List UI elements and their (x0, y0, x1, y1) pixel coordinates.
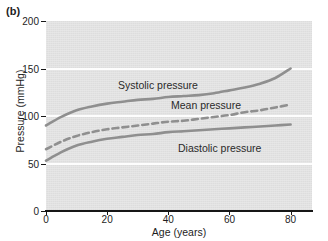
series-label-diastolic: Diastolic pressure (178, 142, 261, 154)
y-tick-0 (41, 211, 46, 212)
x-tick-label-0: 0 (43, 214, 49, 225)
x-tick-label-20: 20 (102, 214, 113, 225)
y-tick-150 (41, 69, 46, 70)
figure-panel: (b) 020406080 050100150200 Age (years) P… (0, 0, 328, 241)
y-axis-title: Pressure (mmHg) (14, 46, 26, 176)
y-tick-100 (41, 116, 46, 117)
series-label-systolic: Systolic pressure (118, 79, 198, 91)
y-tick-50 (41, 164, 46, 165)
curve-systolic-pressure (46, 69, 291, 126)
series-label-mean: Mean pressure (171, 99, 241, 111)
x-tick-label-40: 40 (163, 214, 174, 225)
x-axis-line (45, 210, 313, 212)
y-tick-label-0: 0 (33, 206, 39, 217)
series-curves (0, 0, 328, 241)
x-tick-label-80: 80 (285, 214, 296, 225)
y-tick-200 (41, 21, 46, 22)
x-axis-title: Age (years) (46, 226, 312, 238)
y-tick-label-50: 50 (28, 158, 39, 169)
y-tick-label-200: 200 (22, 16, 39, 27)
x-tick-label-60: 60 (224, 214, 235, 225)
